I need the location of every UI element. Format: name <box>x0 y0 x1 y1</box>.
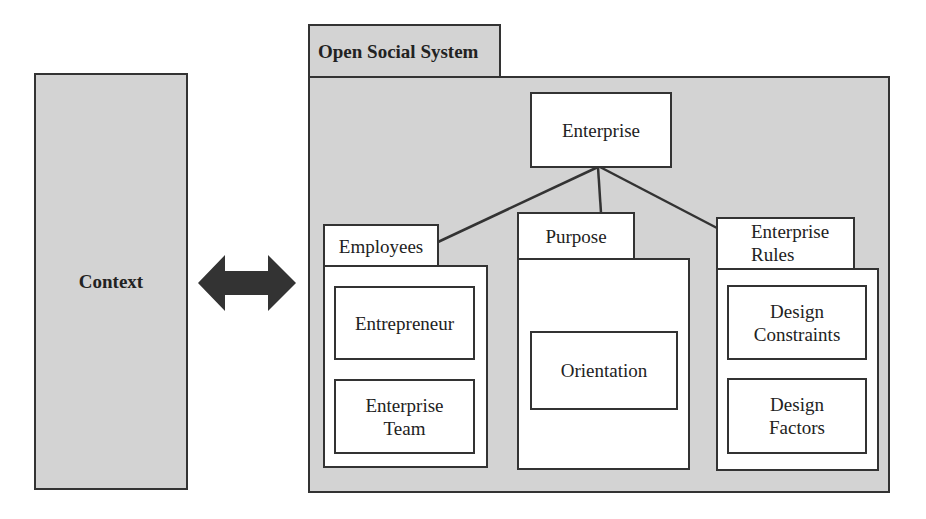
orientation-node: Orientation <box>530 331 678 410</box>
enterprise-rules-label: Enterprise Rules <box>751 220 831 266</box>
employees-label: Employees <box>339 235 423 258</box>
enterprise-node: Enterprise <box>530 92 672 168</box>
orientation-label: Orientation <box>561 359 648 382</box>
design-constraints-node: Design Constraints <box>727 285 867 360</box>
enterprise-label: Enterprise <box>562 119 640 142</box>
purpose-label: Purpose <box>545 225 606 248</box>
double-headed-arrow-icon <box>196 248 298 318</box>
enterprise-team-node: Enterprise Team <box>334 379 475 454</box>
design-factors-label: Design Factors <box>759 393 835 439</box>
purpose-tab: Purpose <box>517 212 635 261</box>
entrepreneur-label: Entrepreneur <box>355 312 454 335</box>
context-label: Context <box>79 270 143 293</box>
system-title: Open Social System <box>318 41 478 62</box>
employees-tab: Employees <box>323 224 439 268</box>
design-factors-node: Design Factors <box>727 378 867 454</box>
enterprise-team-label: Enterprise Team <box>358 394 451 440</box>
design-constraints-label: Design Constraints <box>754 300 841 346</box>
entrepreneur-node: Entrepreneur <box>334 286 475 360</box>
enterprise-rules-tab: Enterprise Rules <box>716 217 855 271</box>
context-panel: Context <box>34 73 188 490</box>
system-title-tab: Open Social System <box>308 24 501 79</box>
